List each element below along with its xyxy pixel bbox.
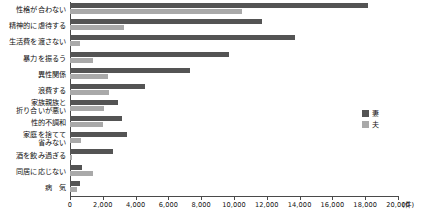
tick-label: 14,000 <box>288 201 312 209</box>
category-label: 同居に応じない <box>0 168 66 176</box>
legend-label: 夫 <box>372 121 379 129</box>
bar-series-wife <box>70 19 262 24</box>
tick-label: 8,000 <box>191 201 210 209</box>
legend: 妻夫 <box>362 109 379 131</box>
legend-swatch <box>362 121 369 128</box>
bar-series-wife <box>70 52 229 57</box>
bar-row <box>70 51 398 67</box>
bar-series-husband <box>70 58 93 63</box>
bar-series-husband <box>70 155 72 160</box>
tick-mark <box>267 196 268 200</box>
tick-mark <box>70 196 71 200</box>
tick-label: 16,000 <box>321 201 345 209</box>
bar-series-husband <box>70 41 80 46</box>
bar-series-wife <box>70 35 295 40</box>
bar-row <box>70 99 398 115</box>
bar-series-husband <box>70 9 242 14</box>
bar-series-wife <box>70 181 80 186</box>
tick-mark <box>300 196 301 200</box>
legend-swatch <box>362 110 369 117</box>
bar-row <box>70 131 398 147</box>
bar-row <box>70 115 398 131</box>
bar-chart: 性格が合わない精神的に虐待する生活費を渡さない暴力を振るう異性関係浪費する家族親… <box>0 0 424 216</box>
category-label: 病 気 <box>0 184 66 192</box>
tick-label: 2,000 <box>93 201 112 209</box>
legend-label: 妻 <box>372 110 379 118</box>
bar-series-wife <box>70 68 190 73</box>
category-label: 精神的に虐待する <box>0 22 66 30</box>
bar-series-wife <box>70 84 145 89</box>
bar-series-husband <box>70 171 93 176</box>
bar-row <box>70 83 398 99</box>
tick-mark <box>201 196 202 200</box>
bar-row <box>70 34 398 50</box>
tick-mark <box>332 196 333 200</box>
category-label: 性格が合わない <box>0 6 66 14</box>
bar-series-wife <box>70 3 368 8</box>
bar-series-wife <box>70 165 82 170</box>
tick-mark <box>365 196 366 200</box>
tick-label: 18,000 <box>353 201 377 209</box>
bar-series-husband <box>70 187 77 192</box>
bar-row <box>70 148 398 164</box>
category-label: 性的不調和 <box>0 119 66 127</box>
legend-item: 夫 <box>362 120 379 129</box>
tick-label: 4,000 <box>126 201 145 209</box>
bar-series-wife <box>70 100 118 105</box>
bar-series-wife <box>70 132 127 137</box>
category-label: 暴力を振るう <box>0 55 66 63</box>
bar-series-husband <box>70 122 103 127</box>
tick-label: 12,000 <box>255 201 279 209</box>
axis-unit-label: (件) <box>402 201 414 209</box>
category-label: 異性関係 <box>0 71 66 79</box>
tick-mark <box>136 196 137 200</box>
category-label-group: 性格が合わない精神的に虐待する生活費を渡さない暴力を振るう異性関係浪費する家族親… <box>0 2 68 196</box>
legend-item: 妻 <box>362 109 379 118</box>
bar-row <box>70 18 398 34</box>
category-label: 生活費を渡さない <box>0 38 66 46</box>
tick-mark <box>168 196 169 200</box>
category-label: 酒を飲み過ぎる <box>0 152 66 160</box>
category-label: 浪費する <box>0 87 66 95</box>
tick-label: 0 <box>68 201 72 209</box>
plot-area <box>70 2 398 196</box>
tick-mark <box>234 196 235 200</box>
tick-mark <box>103 196 104 200</box>
bar-row <box>70 164 398 180</box>
bar-row <box>70 2 398 18</box>
bar-series-wife <box>70 116 122 121</box>
tick-label: 10,000 <box>222 201 246 209</box>
bar-series-husband <box>70 138 81 143</box>
bar-row <box>70 67 398 83</box>
tick-label: 6,000 <box>159 201 178 209</box>
bar-series-husband <box>70 74 108 79</box>
category-label: 家庭を捨てて 省みない <box>0 131 66 148</box>
category-label: 家族親族と 折り合いが悪い <box>0 99 66 116</box>
bar-row <box>70 180 398 196</box>
bar-series-husband <box>70 90 109 95</box>
bar-series-husband <box>70 25 124 30</box>
bar-series-husband <box>70 106 104 111</box>
bar-series-wife <box>70 149 113 154</box>
tick-mark <box>398 196 399 200</box>
